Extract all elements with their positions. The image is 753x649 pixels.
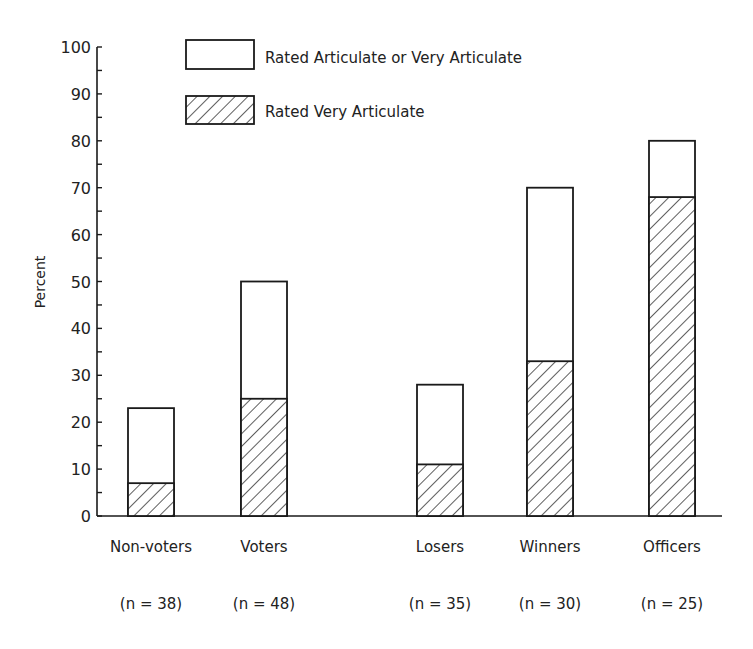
y-tick-label: 50 [71,273,91,292]
x-axis-labels: Non-voters(n = 38)Voters(n = 48)Losers(n… [110,538,703,613]
y-tick-label: 80 [71,132,91,151]
bar-group [417,385,463,516]
sample-size-label: (n = 48) [233,595,295,613]
sample-size-label: (n = 38) [120,595,182,613]
legend-swatch-hatched [186,96,254,124]
y-tick-label: 100 [60,38,91,57]
y-axis-label: Percent [32,255,48,308]
y-tick-label: 40 [71,319,91,338]
bars [128,141,695,516]
bar-very-articulate [649,197,695,516]
y-tick-label: 90 [71,85,91,104]
y-tick-label: 0 [81,507,91,526]
bar-very-articulate [128,483,174,516]
category-label: Winners [520,538,581,556]
legend-swatch-open [186,40,254,69]
y-tick-label: 30 [71,366,91,385]
category-label: Non-voters [110,538,192,556]
y-tick-label: 20 [71,413,91,432]
bar-very-articulate [417,464,463,516]
bar-very-articulate [527,361,573,516]
bar-group [241,282,287,517]
legend: Rated Articulate or Very ArticulateRated… [186,40,522,124]
y-tick-label: 70 [71,179,91,198]
bar-chart: Rated Articulate or Very ArticulateRated… [0,0,753,649]
category-label: Losers [416,538,464,556]
y-tick-label: 10 [71,460,91,479]
y-tick-label: 60 [71,226,91,245]
bar-group [527,188,573,516]
sample-size-label: (n = 30) [519,595,581,613]
bar-group [649,141,695,516]
category-label: Voters [240,538,288,556]
sample-size-label: (n = 35) [409,595,471,613]
bar-very-articulate [241,399,287,516]
sample-size-label: (n = 25) [641,595,703,613]
legend-label-open: Rated Articulate or Very Articulate [265,49,522,67]
bar-group [128,408,174,516]
category-label: Officers [643,538,701,556]
legend-label-hatched: Rated Very Articulate [265,103,425,121]
